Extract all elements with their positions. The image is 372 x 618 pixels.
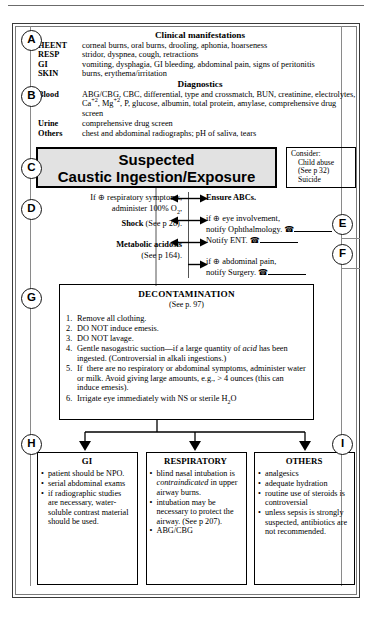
right-arrow xyxy=(188,260,208,269)
decontamination-ref: (See p. 97) xyxy=(66,300,307,309)
column-title: OTHERS xyxy=(258,456,350,466)
bullet-icon: • xyxy=(258,489,265,508)
table-row: SKIN burns, erythema/irritation xyxy=(38,69,353,78)
list-item: 4.Gentle nasogastric suction—if a large … xyxy=(66,344,307,363)
notify-ent-line: Notify ENT. ☎ xyxy=(206,235,356,246)
list-item: 3.DO NOT lavage. xyxy=(66,334,307,344)
table-row: Urine comprehensive drug screen xyxy=(38,119,356,128)
marker-a: A xyxy=(21,30,42,51)
diagnosis-line-1: Suspected xyxy=(119,151,195,168)
treatment-column-gi: GI •patient should be NPO. •serial abdom… xyxy=(37,452,138,585)
list-item: •serial abdominal exams xyxy=(41,479,133,488)
diagnosis-line-2: Caustic Ingestion/Exposure xyxy=(58,168,256,185)
left-actions-column: If ⊕ respiratory symptoms, administer 10… xyxy=(34,192,182,261)
row-label: RESP xyxy=(38,50,82,59)
row-label: Urine xyxy=(38,119,82,128)
clinical-manifestations-table: HEENT corneal burns, oral burns, droolin… xyxy=(38,41,353,79)
treatment-column-others: OTHERS •analgesics •adequate hydration •… xyxy=(254,452,355,585)
list-item: 6.Irrigate eye immediately with NS or st… xyxy=(66,394,307,407)
table-row: RESP stridor, dyspnea, cough, retraction… xyxy=(38,50,353,59)
decontamination-box: DECONTAMINATION (See p. 97) 1.Remove all… xyxy=(59,284,314,420)
row-label: SKIN xyxy=(38,69,82,78)
row-value: burns, erythema/irritation xyxy=(82,69,353,78)
bullet-icon: • xyxy=(150,526,157,535)
right-actions-column: Ensure ABCs. if ⊕ eye involvement, notif… xyxy=(206,192,356,278)
ensure-abcs-line: Ensure ABCs. xyxy=(206,192,356,203)
resp-symptoms-line: If ⊕ respiratory symptoms, xyxy=(34,192,182,203)
list-item: •patient should be NPO. xyxy=(41,469,133,478)
consider-box: Consider: Child abuse (See p 32) Suicide xyxy=(286,147,356,188)
list-item: •blind nasal intubation is contraindicat… xyxy=(150,469,242,497)
metabolic-acidosis-ref: (See p 164). xyxy=(34,250,182,261)
clinical-manifestations-heading: Clinical manifestations xyxy=(55,30,345,40)
row-value: corneal burns, oral burns, drooling, aph… xyxy=(82,41,353,50)
row-value: ABG/CBG, CBC, differential, type and cro… xyxy=(82,90,356,118)
bullet-icon: • xyxy=(150,498,157,526)
list-item: •analgesics xyxy=(258,469,350,478)
column-list: •blind nasal intubation is contraindicat… xyxy=(150,469,242,536)
phone-number-blank[interactable] xyxy=(294,224,332,232)
list-item: •if radiographic studies are necessary, … xyxy=(41,489,133,527)
list-item: •adequate hydration xyxy=(258,479,350,488)
phone-icon: ☎ xyxy=(258,268,268,277)
diagnostics-heading: Diagnostics xyxy=(55,79,345,89)
marker-b: B xyxy=(21,86,42,107)
main-diagnosis-box: Suspected Caustic Ingestion/Exposure xyxy=(36,147,277,188)
branch-connector xyxy=(34,420,356,452)
page-top-rule xyxy=(8,5,364,6)
row-label: GI xyxy=(38,60,82,69)
consider-item-suicide: Suicide xyxy=(291,176,355,185)
row-value: vomiting, dysphagia, GI bleeding, abdomi… xyxy=(82,60,353,69)
bullet-icon: • xyxy=(150,469,157,497)
shock-line: Shock (See p 28). xyxy=(34,218,182,229)
marker-d: D xyxy=(21,199,42,220)
table-row: Blood ABG/CBG, CBC, differential, type a… xyxy=(38,90,356,118)
row-value: stridor, dyspnea, cough, retractions xyxy=(82,50,353,59)
column-title: RESPIRATORY xyxy=(150,456,242,466)
row-value: comprehensive drug screen xyxy=(82,119,356,128)
list-item: 1.Remove all clothing. xyxy=(66,314,307,324)
bullet-icon: • xyxy=(41,489,48,527)
marker-c: C xyxy=(21,158,42,179)
list-item: 5.If there are no respiratory or abdomin… xyxy=(66,364,307,393)
marker-f: F xyxy=(332,244,353,265)
row-label: Others xyxy=(38,129,82,138)
table-row: Others chest and abdominal radiographs; … xyxy=(38,129,356,138)
diagnostics-table: Blood ABG/CBG, CBC, differential, type a… xyxy=(38,90,356,138)
treatment-column-respiratory: RESPIRATORY •blind nasal intubation is c… xyxy=(146,452,247,585)
table-row: HEENT corneal burns, oral burns, droolin… xyxy=(38,41,353,50)
bullet-icon: • xyxy=(258,469,265,478)
list-item: 2.DO NOT induce emesis. xyxy=(66,324,307,334)
column-list: •patient should be NPO. •serial abdomina… xyxy=(41,469,133,526)
bidirectional-arrow xyxy=(170,216,208,225)
marker-e: E xyxy=(332,214,353,235)
oxygen-line: administer 100% O2, xyxy=(34,203,182,218)
marker-h: H xyxy=(21,434,42,455)
phone-number-blank[interactable] xyxy=(260,235,298,243)
decontamination-title: DECONTAMINATION xyxy=(66,289,307,299)
list-item: •unless sepsis is strongly suspected, an… xyxy=(258,508,350,536)
marker-i: I xyxy=(332,434,353,455)
acute-management-block: If ⊕ respiratory symptoms, administer 10… xyxy=(34,192,356,278)
phone-icon: ☎ xyxy=(284,225,294,234)
bidirectional-arrow xyxy=(170,238,208,247)
phone-icon: ☎ xyxy=(250,236,260,245)
decontamination-steps: 1.Remove all clothing. 2.DO NOT induce e… xyxy=(66,314,307,407)
row-value: chest and abdominal radiographs; pH of s… xyxy=(82,129,356,138)
row-label: Blood xyxy=(38,90,82,118)
column-title: GI xyxy=(41,456,133,466)
treatment-columns: GI •patient should be NPO. •serial abdom… xyxy=(37,452,355,585)
metabolic-acidosis-line: Metabolic acidosis xyxy=(34,239,182,250)
row-label: HEENT xyxy=(38,41,82,50)
bidirectional-arrow xyxy=(170,194,208,203)
bullet-icon: • xyxy=(41,469,48,478)
marker-g: G xyxy=(21,288,42,309)
list-item: •ABG/CBG xyxy=(150,526,242,535)
table-row: GI vomiting, dysphagia, GI bleeding, abd… xyxy=(38,60,353,69)
notify-surgery-line: notify Surgery. ☎ xyxy=(206,267,356,278)
bullet-icon: • xyxy=(41,479,48,488)
column-list: •analgesics •adequate hydration •routine… xyxy=(258,469,350,536)
list-item: •routine use of steroids is controversia… xyxy=(258,489,350,508)
flowchart-page: A Clinical manifestations HEENT corneal … xyxy=(0,0,372,618)
phone-number-blank[interactable] xyxy=(268,267,306,275)
